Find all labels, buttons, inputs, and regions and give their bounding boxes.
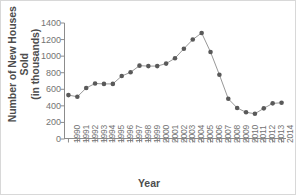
data-point-marker <box>279 100 284 105</box>
data-point-marker <box>84 86 89 91</box>
data-point-marker <box>155 64 160 69</box>
y-tick-label: 400 <box>27 101 61 111</box>
line-chart-svg <box>64 23 286 139</box>
data-point-marker <box>190 37 195 42</box>
data-point-marker <box>75 94 80 99</box>
y-tick-label: 1200 <box>27 35 61 45</box>
y-tick-label: 1400 <box>27 18 61 28</box>
y-axis-tick-labels: 1400120010008006004002000 <box>27 17 61 145</box>
data-point-marker <box>270 101 275 106</box>
y-tick-label: 200 <box>27 117 61 127</box>
data-point-marker <box>164 61 169 66</box>
data-point-marker <box>93 81 98 86</box>
y-tick-label: 1000 <box>27 51 61 61</box>
chart-figure: Number of New Houses Sold (in thousands)… <box>0 0 296 195</box>
y-tick-label: 600 <box>27 84 61 94</box>
data-point-marker <box>199 31 204 36</box>
data-point-marker <box>262 106 267 111</box>
data-point-marker <box>253 111 258 116</box>
data-point-marker <box>182 46 187 51</box>
data-line <box>68 33 281 114</box>
data-point-marker <box>173 56 178 61</box>
data-point-marker <box>208 50 213 55</box>
data-point-marker <box>119 74 124 79</box>
data-point-marker <box>128 70 133 75</box>
data-point-marker <box>137 63 142 68</box>
data-point-marker <box>226 97 231 102</box>
x-tick-label: 2014 <box>285 125 295 143</box>
plot-area <box>64 23 286 139</box>
data-point-marker <box>66 93 71 98</box>
data-point-marker <box>111 82 116 87</box>
y-tick-label: 0 <box>27 134 61 144</box>
data-point-marker <box>146 64 151 69</box>
data-point-marker <box>244 110 249 115</box>
y-tick-label: 800 <box>27 68 61 78</box>
data-point-marker <box>102 82 107 87</box>
data-point-marker <box>217 72 222 77</box>
data-point-marker <box>235 106 240 111</box>
x-axis-tick-labels: 1990199119921993199419951996199719981999… <box>64 141 294 177</box>
x-axis-title: Year <box>1 177 296 189</box>
